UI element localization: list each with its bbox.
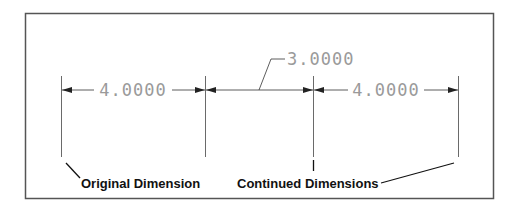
dimension-value-continued-1: 3.0000 [287, 49, 354, 69]
dimension-value-continued-2: 4.0000 [352, 80, 419, 100]
callout-leader-continued-b [381, 163, 454, 183]
leader-line [259, 59, 285, 90]
label-original-dimension: Original Dimension [81, 176, 200, 191]
drawing-frame [26, 14, 494, 199]
dimension-value-original: 4.0000 [99, 80, 166, 100]
dimension-continued-1: 3.0000 [206, 49, 354, 90]
dimension-diagram: 4.0000 3.0000 4.0000 Original Dimension … [0, 0, 519, 211]
dimension-continued-2: 4.0000 [314, 80, 458, 100]
label-continued-dimensions: Continued Dimensions [237, 176, 379, 191]
callout-leader-original [66, 163, 80, 178]
dimension-original: 4.0000 [62, 80, 205, 100]
